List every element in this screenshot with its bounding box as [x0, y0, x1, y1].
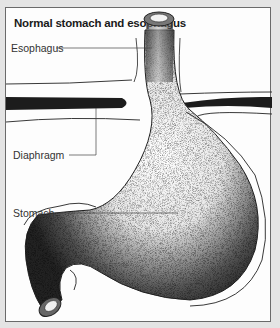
diaphragm-left	[6, 80, 140, 122]
label-diaphragm: Diaphragm	[13, 149, 64, 161]
stomach-shape	[24, 22, 266, 308]
label-esophagus: Esophagus	[11, 42, 64, 54]
diaphragm-leader	[69, 108, 96, 155]
label-stomach: Stomach	[13, 207, 54, 219]
